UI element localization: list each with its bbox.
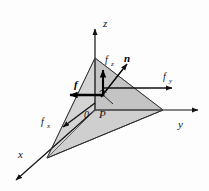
tetrahedron-diagram: z y x 0 P f n f z f y f x bbox=[0, 0, 209, 191]
point-p-label: P bbox=[98, 108, 106, 120]
origin-label: 0 bbox=[84, 109, 89, 120]
vector-label-f: f bbox=[74, 78, 79, 90]
vector-label-fx-base: f bbox=[41, 116, 45, 127]
figure-root: z y x 0 P f n f z f y f x bbox=[0, 0, 209, 191]
axis-x bbox=[16, 110, 95, 180]
axis-label-z: z bbox=[102, 17, 108, 29]
vector-label-n: n bbox=[124, 52, 130, 64]
axis-label-y: y bbox=[177, 118, 183, 130]
vector-label-fy-sub: y bbox=[168, 77, 173, 85]
vector-label-fx-sub: x bbox=[46, 122, 51, 130]
vector-label-fy-base: f bbox=[163, 71, 167, 82]
axis-label-x: x bbox=[17, 148, 23, 160]
vector-label-fz-base: f bbox=[105, 54, 109, 65]
vector-label-fz-sub: z bbox=[110, 60, 114, 68]
vector-label-fz: f z bbox=[105, 54, 114, 68]
vector-label-fy: f y bbox=[163, 71, 173, 85]
vector-label-fx: f x bbox=[41, 116, 51, 130]
